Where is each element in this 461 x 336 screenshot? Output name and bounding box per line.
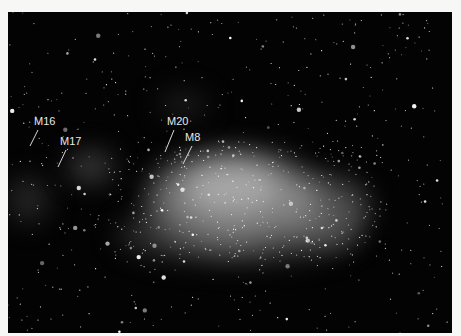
pointer-m17 — [58, 150, 66, 167]
pointer-m16 — [30, 130, 38, 146]
pointer-m20 — [165, 130, 174, 152]
milky-way-photo: M16 M17 M20 M8 — [8, 12, 452, 333]
pointer-m8 — [183, 146, 192, 164]
label-pointers — [8, 12, 452, 333]
